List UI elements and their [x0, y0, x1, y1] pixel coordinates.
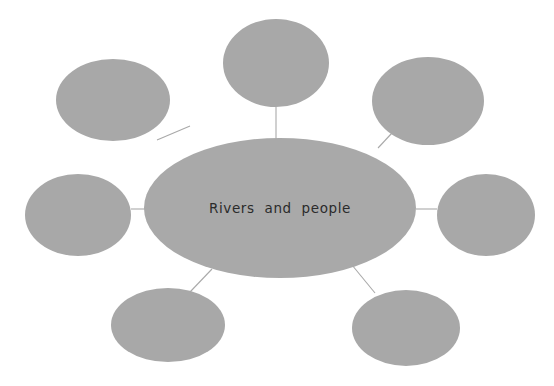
branch-node-right[interactable] [437, 174, 535, 256]
central-node-layer: Rivers and people [144, 138, 416, 278]
branch-node-top-left-ellipse[interactable] [56, 59, 170, 141]
central-node-label: Rivers and people [209, 200, 351, 216]
branch-node-top-right-ellipse[interactable] [372, 57, 484, 145]
connector-bottom-left [190, 269, 212, 292]
branch-node-bottom-right[interactable] [352, 290, 460, 366]
branch-node-top[interactable] [223, 19, 329, 107]
branch-node-left[interactable] [25, 174, 131, 256]
branch-node-bottom-right-ellipse[interactable] [352, 290, 460, 366]
branch-node-top-right[interactable] [372, 57, 484, 145]
branch-node-left-ellipse[interactable] [25, 174, 131, 256]
branch-node-bottom-left-ellipse[interactable] [111, 288, 225, 362]
mindmap-canvas: Rivers and people [0, 0, 554, 386]
branch-node-right-ellipse[interactable] [437, 174, 535, 256]
connector-bottom-right [352, 265, 375, 293]
connector-top-left [157, 126, 190, 140]
branch-node-top-ellipse[interactable] [223, 19, 329, 107]
connector-top-right [378, 133, 392, 148]
branch-node-bottom-left[interactable] [111, 288, 225, 362]
branch-node-top-left[interactable] [56, 59, 170, 141]
mindmap-diagram: Rivers and people [0, 0, 554, 386]
